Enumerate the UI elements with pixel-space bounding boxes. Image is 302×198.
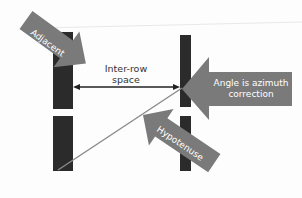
faint-divider	[40, 22, 302, 28]
arrowhead-right-icon	[173, 84, 180, 90]
angle-label: Angle is azimuth correction	[210, 78, 292, 101]
diagram-canvas: Adjacent Inter-row space Angle is azimut…	[0, 0, 302, 198]
angle-label-line2: correction	[210, 89, 292, 100]
inter-row-label-line1: Inter-row	[100, 63, 152, 74]
angle-label-line1: Angle is azimuth	[210, 78, 292, 89]
inter-row-space-label: Inter-row space	[100, 63, 152, 86]
inter-row-label-line2: space	[100, 74, 152, 85]
arrowhead-left-icon	[73, 84, 80, 90]
